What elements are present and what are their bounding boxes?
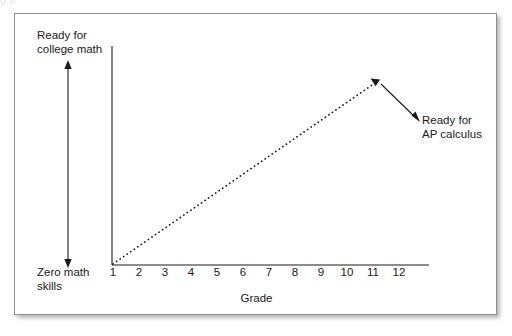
x-tick-1: 1	[102, 266, 124, 278]
scale-range-arrow	[64, 60, 71, 268]
progression-dotted-line	[113, 79, 380, 264]
annotation-leader-arrow	[381, 84, 420, 122]
clipped-caption-text: g p	[0, 0, 512, 5]
x-tick-5: 5	[206, 266, 228, 278]
x-tick-8: 8	[284, 266, 306, 278]
x-tick-11: 11	[362, 266, 384, 278]
x-tick-12: 12	[388, 266, 410, 278]
y-axis-bottom-label: Zero math skills	[37, 266, 89, 293]
figure-frame: Ready for college math Zero math skills …	[14, 13, 497, 315]
x-axis-title: Grade	[15, 292, 498, 304]
x-tick-10: 10	[336, 266, 358, 278]
x-tick-3: 3	[154, 266, 176, 278]
y-axis-top-label: Ready for college math	[37, 29, 102, 56]
x-tick-7: 7	[258, 266, 280, 278]
x-tick-6: 6	[232, 266, 254, 278]
x-tick-9: 9	[310, 266, 332, 278]
plot-area: Ready for college math Zero math skills …	[15, 14, 498, 316]
annotation-label-ap-calculus: Ready for AP calculus	[422, 114, 482, 141]
x-tick-2: 2	[128, 266, 150, 278]
x-tick-4: 4	[180, 266, 202, 278]
